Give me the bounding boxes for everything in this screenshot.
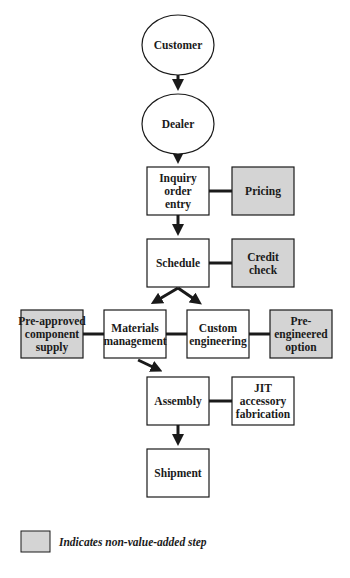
- node-label: JIT: [254, 382, 272, 394]
- node-label: Assembly: [154, 395, 202, 408]
- node-dealer: Dealer: [142, 94, 214, 154]
- node-shipment: Shipment: [147, 449, 209, 497]
- node-label: engineering: [189, 335, 247, 348]
- node-label: Pre-approved: [18, 315, 86, 328]
- node-jit: JITaccessoryfabrication: [232, 377, 294, 425]
- node-credit-check: Creditcheck: [232, 239, 294, 287]
- legend-label: Indicates non-value-added step: [58, 536, 207, 549]
- node-label: Credit: [247, 251, 279, 263]
- node-schedule: Schedule: [147, 239, 209, 287]
- arrow-materials-to-assembly: [138, 360, 157, 369]
- node-label: engineered: [274, 328, 328, 341]
- node-inquiry: Inquiryorderentry: [147, 167, 209, 215]
- node-pre-engineered: Pre-engineeredoption: [270, 310, 332, 358]
- nodes-layer: CustomerDealerInquiryorderentryPricingSc…: [18, 15, 332, 497]
- node-label: accessory: [240, 395, 287, 408]
- node-label: order: [164, 185, 191, 197]
- node-label: supply: [36, 341, 69, 354]
- node-custom-engineering: Customengineering: [187, 310, 249, 358]
- node-label: Materials: [111, 322, 159, 334]
- node-label: management: [103, 335, 166, 348]
- node-label: Customer: [154, 39, 203, 51]
- legend: Indicates non-value-added step: [21, 531, 207, 552]
- node-assembly: Assembly: [147, 377, 209, 425]
- node-label: check: [249, 264, 278, 276]
- node-pricing: Pricing: [232, 167, 294, 215]
- node-label: Custom: [199, 322, 238, 334]
- node-label: Pricing: [245, 185, 281, 198]
- arrow-schedule-to-materials: [156, 288, 178, 301]
- node-label: Shipment: [154, 467, 201, 480]
- node-customer: Customer: [142, 15, 214, 75]
- node-label: option: [285, 341, 317, 354]
- node-materials: Materialsmanagement: [103, 310, 166, 358]
- node-label: Dealer: [162, 118, 195, 130]
- node-label: Schedule: [156, 257, 200, 269]
- node-label: entry: [165, 198, 191, 211]
- node-pre-approved: Pre-approvedcomponentsupply: [18, 310, 86, 358]
- legend-swatch: [21, 531, 50, 552]
- node-label: fabrication: [236, 408, 291, 420]
- node-label: Inquiry: [159, 172, 197, 185]
- arrow-schedule-to-custom-engineering: [178, 288, 197, 301]
- node-label: Pre-: [291, 315, 312, 327]
- process-flow-diagram: CustomerDealerInquiryorderentryPricingSc…: [0, 0, 350, 578]
- node-label: component: [25, 328, 79, 341]
